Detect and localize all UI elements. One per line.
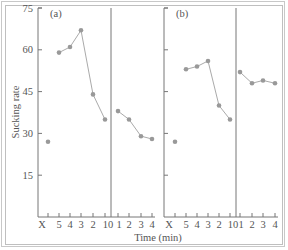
y-tick-label: 75 bbox=[23, 3, 34, 14]
data-point bbox=[68, 45, 73, 50]
series-line-after bbox=[118, 111, 152, 139]
data-point bbox=[250, 81, 255, 86]
data-point bbox=[195, 64, 200, 69]
data-point bbox=[217, 103, 222, 108]
x-tick-label: 10 bbox=[228, 219, 239, 230]
x-tick-label: 3 bbox=[138, 219, 143, 230]
data-point bbox=[150, 137, 155, 142]
data-point bbox=[139, 134, 144, 139]
series-line-before bbox=[186, 61, 230, 120]
y-tick-label: 15 bbox=[23, 170, 34, 181]
x-tick-label: 4 bbox=[67, 219, 73, 230]
data-point bbox=[261, 78, 266, 83]
x-axis-title: Time (min) bbox=[134, 232, 182, 244]
data-point bbox=[79, 28, 84, 33]
data-point-baseline bbox=[46, 139, 51, 144]
y-tick-label: 30 bbox=[23, 128, 34, 139]
data-point bbox=[116, 109, 121, 114]
y-axis-title: Sucking rate bbox=[10, 85, 21, 138]
data-point bbox=[57, 50, 62, 55]
x-tick-label: 2 bbox=[249, 219, 254, 230]
x-tick-label: X bbox=[165, 219, 173, 230]
data-point bbox=[206, 59, 211, 64]
data-point bbox=[273, 81, 278, 86]
y-tick-label: 60 bbox=[23, 44, 34, 55]
data-point bbox=[127, 117, 132, 122]
data-point bbox=[91, 92, 96, 97]
panel-label: (a) bbox=[50, 8, 62, 20]
series-line-after bbox=[240, 72, 275, 83]
x-tick-label: 3 bbox=[205, 219, 210, 230]
x-tick-label: 5 bbox=[183, 219, 188, 230]
x-tick-label: 10 bbox=[103, 219, 114, 230]
data-point bbox=[228, 117, 233, 122]
x-tick-label: 2 bbox=[90, 219, 95, 230]
x-tick-label: 5 bbox=[56, 219, 61, 230]
x-tick-label: 4 bbox=[149, 219, 155, 230]
x-tick-label: 3 bbox=[78, 219, 83, 230]
data-point bbox=[103, 117, 108, 122]
series-line-before bbox=[59, 30, 105, 119]
data-point-baseline bbox=[173, 139, 178, 144]
panel-label: (b) bbox=[176, 8, 189, 20]
x-tick-label: 4 bbox=[272, 219, 278, 230]
x-tick-label: 1 bbox=[116, 219, 121, 230]
data-point bbox=[184, 67, 189, 72]
y-tick-label: 45 bbox=[23, 86, 34, 97]
x-tick-label: 4 bbox=[194, 219, 200, 230]
x-tick-label: 3 bbox=[260, 219, 265, 230]
x-tick-label: 2 bbox=[126, 219, 131, 230]
x-tick-label: X bbox=[38, 219, 46, 230]
sucking-rate-chart: 1530456075X5432101234(a)X5432101234(b)Su… bbox=[0, 0, 288, 250]
data-point bbox=[238, 70, 243, 75]
x-tick-label: 1 bbox=[238, 219, 243, 230]
x-tick-label: 2 bbox=[216, 219, 221, 230]
